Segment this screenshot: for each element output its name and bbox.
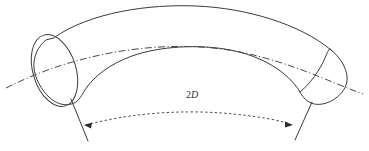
left-extension-line bbox=[71, 99, 88, 141]
technical-drawing-figure: 2D bbox=[0, 0, 369, 151]
left-arrowhead bbox=[84, 123, 92, 129]
dimension-symbol: D bbox=[190, 89, 199, 100]
right-arrowhead bbox=[285, 122, 293, 128]
right-extension-line bbox=[295, 102, 312, 140]
bend-dimension-arc bbox=[86, 112, 290, 125]
dimension-label: 2D bbox=[186, 89, 199, 100]
figure-canvas: 2D bbox=[0, 0, 369, 151]
